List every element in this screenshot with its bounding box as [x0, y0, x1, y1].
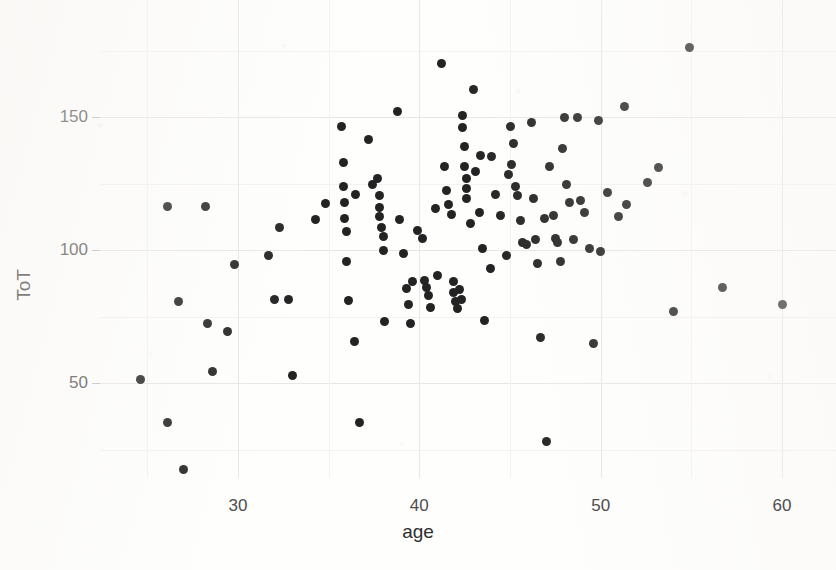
x-tick-label: 50: [591, 496, 610, 516]
data-point: [351, 190, 360, 199]
y-tick-label: 100: [60, 240, 88, 260]
gridline-vertical: [510, 0, 511, 478]
data-point: [163, 418, 172, 427]
data-point: [442, 186, 451, 195]
gridline-vertical: [691, 0, 692, 478]
data-point: [375, 203, 384, 212]
data-point: [375, 191, 384, 200]
data-point: [504, 170, 513, 179]
data-point: [511, 182, 520, 191]
data-point: [576, 196, 585, 205]
data-point: [458, 123, 467, 132]
data-point: [594, 116, 603, 125]
data-point: [270, 295, 279, 304]
x-tick-label: 30: [229, 496, 248, 516]
data-point: [395, 215, 404, 224]
data-point: [573, 113, 582, 122]
gridline-horizontal: [100, 250, 836, 251]
data-point: [478, 244, 487, 253]
data-point: [475, 208, 484, 217]
data-point: [669, 307, 678, 316]
data-point: [447, 210, 456, 219]
data-point: [342, 227, 351, 236]
data-point: [614, 212, 623, 221]
data-point: [486, 264, 495, 273]
data-point: [377, 223, 386, 232]
data-point: [545, 162, 554, 171]
data-point: [431, 204, 440, 213]
data-point: [506, 122, 515, 131]
data-point: [533, 259, 542, 268]
data-point: [620, 102, 629, 111]
data-point: [355, 418, 364, 427]
data-point: [223, 327, 232, 336]
data-point: [562, 180, 571, 189]
data-point: [476, 151, 485, 160]
data-point: [136, 375, 145, 384]
data-point: [462, 194, 471, 203]
data-point: [404, 300, 413, 309]
data-point: [379, 246, 388, 255]
data-point: [457, 295, 466, 304]
y-tick-label: 150: [60, 107, 88, 127]
data-point: [507, 160, 516, 169]
data-point: [201, 202, 210, 211]
data-point: [529, 194, 538, 203]
data-point: [502, 251, 511, 260]
data-point: [491, 190, 500, 199]
data-point: [458, 111, 467, 120]
data-point: [462, 174, 471, 183]
data-point: [527, 118, 536, 127]
data-point: [556, 257, 565, 266]
data-point: [453, 304, 462, 313]
data-point: [558, 144, 567, 153]
data-point: [654, 163, 663, 172]
data-point: [462, 184, 471, 193]
y-tick-mark: [92, 383, 100, 384]
gridline-vertical: [601, 0, 602, 478]
gridline-horizontal: [100, 450, 836, 451]
data-point: [553, 238, 562, 247]
data-point: [540, 214, 549, 223]
data-point: [480, 316, 489, 325]
data-point: [778, 300, 787, 309]
data-point: [536, 333, 545, 342]
data-point: [380, 317, 389, 326]
data-point: [496, 211, 505, 220]
data-point: [466, 219, 475, 228]
data-point: [364, 135, 373, 144]
data-point: [284, 295, 293, 304]
x-axis-label: age: [0, 521, 836, 543]
data-point: [342, 257, 351, 266]
data-point: [585, 244, 594, 253]
data-point: [264, 251, 273, 260]
data-point: [444, 200, 453, 209]
y-tick-label: 50: [69, 373, 88, 393]
gridline-vertical: [329, 0, 330, 478]
data-point: [311, 215, 320, 224]
data-point: [643, 178, 652, 187]
data-point: [379, 232, 388, 241]
scatter-plot-figure: 50100150 age ToT 30405060: [0, 0, 836, 570]
data-point: [413, 226, 422, 235]
data-point: [340, 198, 349, 207]
data-point: [589, 339, 598, 348]
data-point: [513, 191, 522, 200]
data-point: [426, 303, 435, 312]
data-point: [522, 240, 531, 249]
data-point: [580, 208, 589, 217]
data-point: [179, 465, 188, 474]
y-axis-label-text: ToT: [13, 269, 35, 301]
gridline-vertical: [238, 0, 239, 478]
gridline-horizontal: [100, 51, 836, 52]
gridline-vertical: [147, 0, 148, 478]
data-point: [596, 247, 605, 256]
data-point: [565, 198, 574, 207]
gridline-horizontal: [100, 117, 836, 118]
y-tick-mark: [92, 250, 100, 251]
gridline-horizontal: [100, 317, 836, 318]
plot-panel: [0, 0, 836, 570]
data-point: [531, 235, 540, 244]
data-point: [469, 85, 478, 94]
data-point: [560, 113, 569, 122]
